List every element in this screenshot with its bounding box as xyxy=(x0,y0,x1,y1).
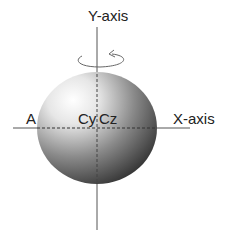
x-axis-label: X-axis xyxy=(173,110,215,127)
rotation-arrow-icon xyxy=(78,54,123,67)
center-cy-label: Cy xyxy=(78,110,97,127)
y-axis-label: Y-axis xyxy=(88,7,128,24)
sphere-rotation-diagram: Y-axis X-axis A Cy Cz xyxy=(0,0,227,237)
point-a-label: A xyxy=(26,110,36,127)
center-cz-label: Cz xyxy=(99,110,117,127)
rotation-arrowhead-icon xyxy=(109,50,115,57)
